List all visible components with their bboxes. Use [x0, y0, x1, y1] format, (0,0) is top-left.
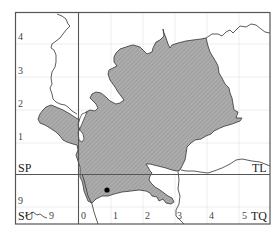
grid-square-tl: TL: [252, 162, 267, 174]
shaded-region: [38, 29, 242, 204]
x-tick-1: 1: [113, 211, 118, 221]
y-tick-4: 4: [18, 32, 23, 42]
grid-square-tq: TQ: [251, 210, 267, 222]
x-tick-5: 5: [242, 211, 247, 221]
y-tick-2: 2: [18, 99, 23, 109]
x-tick-0: 0: [81, 211, 86, 221]
y-tick-3: 3: [18, 66, 23, 76]
location-marker[interactable]: [104, 187, 109, 192]
x-tick-4: 4: [209, 211, 214, 221]
y-tick-1: 1: [18, 132, 23, 142]
map-canvas: [0, 0, 280, 238]
x-tick-9: 9: [49, 211, 54, 221]
x-tick-2: 2: [145, 211, 150, 221]
grid-square-su: SU: [18, 210, 33, 222]
grid-square-sp: SP: [18, 162, 31, 174]
x-tick-3: 3: [177, 211, 182, 221]
y-tick-9: 9: [18, 196, 23, 206]
